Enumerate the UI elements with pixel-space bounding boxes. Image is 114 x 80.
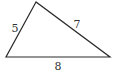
side-label-left: 5 xyxy=(12,22,19,35)
side-label-right: 7 xyxy=(74,18,81,31)
side-label-base: 8 xyxy=(55,60,62,73)
triangle-shape xyxy=(6,2,110,57)
triangle-svg: 5 7 8 xyxy=(0,0,114,80)
triangle-diagram: 5 7 8 xyxy=(0,0,114,80)
